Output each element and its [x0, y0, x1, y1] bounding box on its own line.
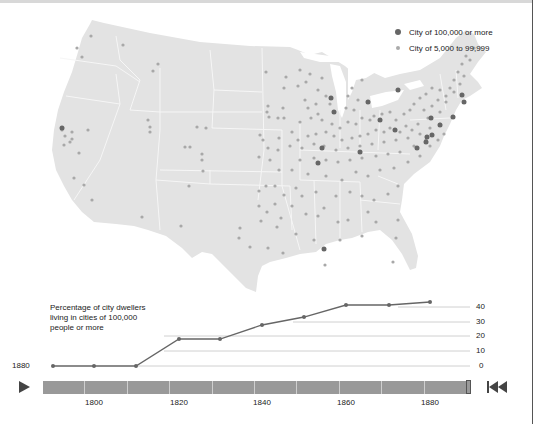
legend-large-city-label: City of 100,000 or more	[409, 28, 493, 37]
timeline-segment	[170, 381, 212, 394]
frame-border	[532, 0, 533, 424]
timeline-segment	[382, 381, 424, 394]
timeline-segment	[85, 381, 127, 394]
timeline-segment	[425, 381, 466, 394]
legend-item-small-city: City of 5,000 to 99,999	[395, 40, 493, 56]
y-tick-40: 40	[476, 302, 485, 311]
urban-percentage-line-chart	[0, 290, 532, 380]
y-tick-30: 30	[476, 317, 485, 326]
x-tick-1820: 1820	[170, 398, 188, 407]
legend-small-city-label: City of 5,000 to 99,999	[409, 44, 490, 53]
x-tick-1840: 1840	[253, 398, 271, 407]
y-tick-20: 20	[476, 331, 485, 340]
timeline-slider-thumb[interactable]	[466, 380, 471, 394]
current-year-label: 1880	[12, 361, 30, 370]
y-tick-0: 0	[479, 361, 483, 370]
rewind-icon[interactable]	[487, 381, 509, 393]
y-tick-10: 10	[476, 346, 485, 355]
map-legend: City of 100,000 or more City of 5,000 to…	[395, 24, 493, 56]
timeline-segment	[340, 381, 382, 394]
timeline-segment	[43, 381, 85, 394]
small-city-dot-icon	[396, 46, 400, 50]
timeline-segment	[297, 381, 339, 394]
timeline-segment	[128, 381, 170, 394]
x-tick-1880: 1880	[421, 398, 439, 407]
large-city-dot-icon	[395, 29, 401, 35]
timeline-slider-track[interactable]	[43, 381, 466, 394]
x-tick-1800: 1800	[85, 398, 103, 407]
legend-item-large-city: City of 100,000 or more	[395, 24, 493, 40]
timeline-segment	[213, 381, 255, 394]
chart-line	[53, 302, 430, 366]
timeline-segment	[255, 381, 297, 394]
x-tick-1860: 1860	[337, 398, 355, 407]
chart-data-points	[51, 300, 432, 368]
play-icon[interactable]	[19, 381, 30, 393]
